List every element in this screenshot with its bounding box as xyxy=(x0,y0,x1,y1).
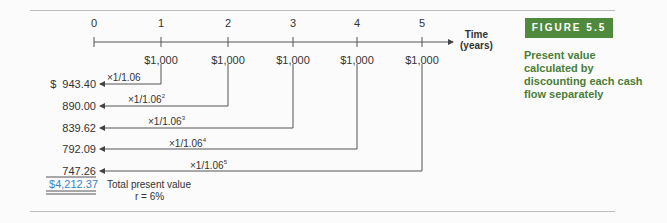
factor-exponent: 4 xyxy=(203,137,206,143)
axis-label: Time (years) xyxy=(460,29,493,51)
factor-exponent: 5 xyxy=(224,159,227,165)
cash-flow-2: $1,000 xyxy=(203,54,253,66)
factor-exponent: 3 xyxy=(182,115,185,121)
cash-flow-5: $1,000 xyxy=(397,54,447,66)
tick-label-3: 3 xyxy=(283,17,303,29)
axis-label-line1: Time xyxy=(460,29,493,40)
pv-year-1: $ 943.40 xyxy=(44,78,96,90)
pv-year-5: 747.26 xyxy=(44,165,96,177)
factor-text: ×1/1.06 xyxy=(190,160,224,171)
discount-factor-3: ×1/1.063 xyxy=(148,115,185,127)
tick-label-5: 5 xyxy=(412,17,432,29)
tick-label-4: 4 xyxy=(347,17,367,29)
discount-factor-1: ×1/1.06 xyxy=(107,71,141,83)
discount-factor-2: ×1/1.062 xyxy=(128,93,165,105)
tick-label-0: 0 xyxy=(84,17,104,29)
total-label: Total present value xyxy=(107,179,191,190)
factor-text: ×1/1.06 xyxy=(148,116,182,127)
factor-text: ×1/1.06 xyxy=(169,138,203,149)
total-present-value: $4,212.37 xyxy=(46,178,98,190)
cash-flow-4: $1,000 xyxy=(332,54,382,66)
tick-label-2: 2 xyxy=(218,17,238,29)
factor-text: ×1/1.06 xyxy=(107,72,141,83)
figure-badge: FIGURE 5.5 xyxy=(525,18,613,38)
figure-caption: Present value calculated by discounting … xyxy=(524,49,644,101)
tick-label-1: 1 xyxy=(151,17,171,29)
factor-text: ×1/1.06 xyxy=(128,94,162,105)
interest-rate: r = 6% xyxy=(135,191,164,202)
pv-year-4: 792.09 xyxy=(44,143,96,155)
axis-label-line2: (years) xyxy=(460,40,493,51)
factor-exponent: 2 xyxy=(162,93,165,99)
cash-flow-3: $1,000 xyxy=(268,54,318,66)
cash-flow-1: $1,000 xyxy=(136,54,186,66)
pv-year-2: 890.00 xyxy=(44,100,96,112)
pv-year-3: 839.62 xyxy=(44,122,96,134)
discount-factor-4: ×1/1.064 xyxy=(169,137,206,149)
discount-factor-5: ×1/1.065 xyxy=(190,159,227,171)
